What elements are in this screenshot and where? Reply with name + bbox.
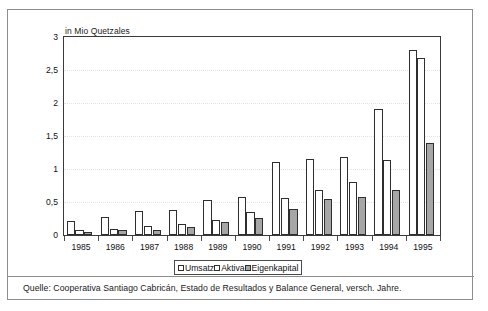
legend-label: Eigenkapital	[252, 263, 299, 273]
legend-swatch-umsatz	[178, 265, 184, 271]
x-tick	[132, 236, 133, 241]
x-tick	[98, 236, 99, 241]
chart-area: in Mio Quetzales 00,511,522,53 198519861…	[8, 10, 474, 260]
legend-item-aktiva: Aktiva	[214, 263, 244, 273]
x-tick	[64, 236, 65, 241]
divider	[8, 276, 474, 277]
legend-item-umsatz: Umsatz	[178, 263, 214, 273]
legend-swatch-eigenkapital	[245, 265, 251, 271]
x-tick	[440, 236, 441, 241]
legend-item-eigenkapital: Eigenkapital	[245, 263, 299, 273]
figure-container: in Mio Quetzales 00,511,522,53 198519861…	[7, 9, 473, 300]
x-tick	[201, 236, 202, 241]
x-tick	[406, 236, 407, 241]
chart-legend: UmsatzAktivaEigenkapital	[174, 260, 302, 275]
x-tick	[235, 236, 236, 241]
legend-label: Aktiva	[221, 263, 244, 273]
legend-swatch-aktiva	[214, 265, 220, 271]
source-caption: Quelle: Cooperativa Santiago Cabricán, E…	[23, 283, 463, 293]
x-tick	[303, 236, 304, 241]
legend-label: Umsatz	[185, 263, 214, 273]
x-axis-ticks-and-labels: 1985198619871988198919901991199219931994…	[8, 10, 474, 260]
x-tick-label: 1995	[400, 242, 446, 252]
x-tick	[269, 236, 270, 241]
x-tick	[167, 236, 168, 241]
x-tick	[337, 236, 338, 241]
x-tick	[372, 236, 373, 241]
